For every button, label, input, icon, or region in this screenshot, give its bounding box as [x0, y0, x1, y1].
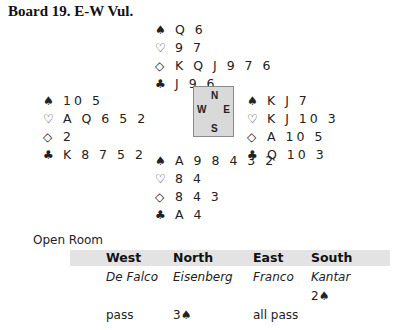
- club-icon: ♣: [155, 75, 175, 93]
- north-hearts: ♡9 7: [155, 39, 273, 57]
- south-diamonds: ◇8 4 3: [155, 188, 276, 206]
- club-icon: ♣: [155, 206, 175, 224]
- west-diamonds: ◇2: [43, 128, 148, 146]
- player-south: Kantar: [311, 269, 350, 285]
- north-diamonds: ◇K Q J 9 7 6: [155, 57, 273, 75]
- header-east: East: [253, 250, 283, 266]
- east-hearts: ♡K J 10 3: [247, 110, 339, 128]
- diamond-icon: ◇: [155, 57, 175, 75]
- bidding-table: West North East South De Falco Eisenberg…: [0, 250, 398, 326]
- player-west: De Falco: [106, 269, 158, 285]
- club-icon: ♣: [43, 146, 63, 164]
- diamond-icon: ◇: [155, 188, 175, 206]
- heart-icon: ♡: [155, 170, 175, 188]
- bid-cell: 3♠: [173, 307, 191, 323]
- bid-cell: 2♠: [311, 288, 329, 304]
- west-clubs: ♣K 8 7 5 2: [43, 146, 148, 164]
- header-west: West: [106, 250, 141, 266]
- compass-east: E: [223, 104, 230, 115]
- bid-round-2: pass 3♠ all pass: [0, 307, 398, 326]
- players-row: De Falco Eisenberg Franco Kantar: [0, 269, 398, 288]
- header-south: South: [311, 250, 352, 266]
- board-title: Board 19. E-W Vul.: [8, 3, 133, 20]
- bid-cell: pass: [106, 307, 133, 323]
- diamond-icon: ◇: [247, 128, 267, 146]
- south-hand: ♠A 9 8 4 3 2 ♡8 4 ◇8 4 3 ♣A 4: [155, 152, 276, 224]
- bid-round-1: 2♠: [0, 288, 398, 307]
- heart-icon: ♡: [155, 39, 175, 57]
- compass-north: N: [211, 90, 218, 101]
- bid-cell: all pass: [253, 307, 298, 323]
- compass-west: W: [197, 104, 206, 115]
- spade-icon: ♠: [247, 92, 267, 110]
- heart-icon: ♡: [43, 110, 63, 128]
- compass-south: S: [211, 123, 218, 134]
- west-spades: ♠10 5: [43, 92, 148, 110]
- heart-icon: ♡: [247, 110, 267, 128]
- east-diamonds: ◇A 10 5: [247, 128, 339, 146]
- west-hand: ♠10 5 ♡A Q 6 5 2 ◇2 ♣K 8 7 5 2: [43, 92, 148, 164]
- spade-icon: ♠: [43, 92, 63, 110]
- room-label: Open Room: [33, 233, 103, 247]
- north-spades: ♠Q 6: [155, 21, 273, 39]
- east-spades: ♠K J 7: [247, 92, 339, 110]
- compass-box: N W E S: [193, 86, 234, 137]
- south-clubs: ♣A 4: [155, 206, 276, 224]
- spade-icon: ♠: [155, 152, 175, 170]
- spade-icon: ♠: [155, 21, 175, 39]
- south-hearts: ♡8 4: [155, 170, 276, 188]
- diamond-icon: ◇: [43, 128, 63, 146]
- west-hearts: ♡A Q 6 5 2: [43, 110, 148, 128]
- bidding-header-row: West North East South: [0, 250, 398, 269]
- header-north: North: [173, 250, 213, 266]
- north-hand: ♠Q 6 ♡9 7 ◇K Q J 9 7 6 ♣J 9 6: [155, 21, 273, 93]
- south-spades: ♠A 9 8 4 3 2: [155, 152, 276, 170]
- player-east: Franco: [253, 269, 294, 285]
- player-north: Eisenberg: [173, 269, 233, 285]
